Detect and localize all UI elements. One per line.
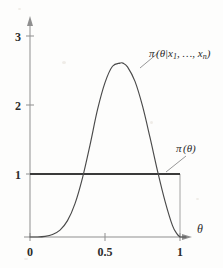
x-axis-variable-label: θ <box>197 222 203 236</box>
y-tick-label-2: 2 <box>15 99 21 113</box>
prior-posterior-density-figure: 1 2 3 0 0.5 1 θ π(θ|x1, …, xn) <box>0 0 223 268</box>
y-tick-label-3: 3 <box>15 30 21 44</box>
prior-series-label: π(θ) <box>176 142 196 155</box>
prior-leader-line <box>166 156 186 172</box>
y-axis-group: 1 2 3 <box>15 16 34 237</box>
y-axis-arrowhead <box>27 16 33 26</box>
posterior-annotation-group: π(θ|x1, …, xn) <box>140 47 211 68</box>
x-tick-label-0: 0 <box>27 245 33 259</box>
posterior-mid-glyph: , …, x <box>177 47 203 59</box>
posterior-pi-glyph: π <box>149 47 155 59</box>
posterior-density-curve <box>30 63 186 237</box>
x-tick-label-1: 1 <box>177 245 183 259</box>
prior-pi-glyph: π <box>176 142 182 154</box>
plot-canvas: 1 2 3 0 0.5 1 θ π(θ|x1, …, xn) <box>0 0 223 268</box>
posterior-close-glyph: ) <box>206 47 211 60</box>
y-tick-label-1: 1 <box>15 168 21 182</box>
x-axis-group: 0 0.5 1 θ <box>24 222 203 259</box>
posterior-args-glyph: (θ|x <box>156 47 173 60</box>
posterior-series-label: π(θ|x1, …, xn) <box>149 47 211 61</box>
prior-annotation-group: π(θ) <box>166 142 196 172</box>
x-tick-label-0point5: 0.5 <box>98 245 113 259</box>
prior-args-glyph: (θ) <box>183 142 196 155</box>
